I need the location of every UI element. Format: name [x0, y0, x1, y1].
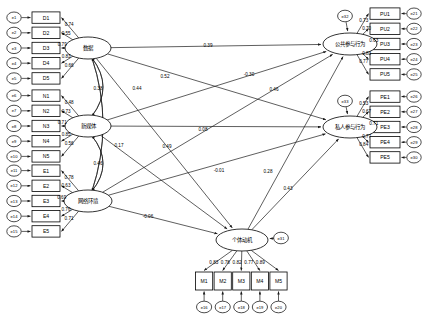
error-label-e15: e15: [11, 229, 19, 234]
loading-coef-m4: 0.77: [244, 260, 253, 265]
indicator-label-m4: M4: [256, 278, 263, 284]
disturbance-label-e33: e33: [342, 99, 350, 104]
loading-coef-pe3: 0.71: [369, 121, 378, 126]
path-coef-e-pu: 0.46: [270, 87, 279, 92]
indicator-label-pu1: PU1: [380, 11, 390, 17]
indicator-label-m1: M1: [201, 278, 208, 284]
latent-label-pe: 私人参与行为: [335, 123, 365, 131]
indicator-label-d4: D4: [43, 60, 50, 66]
error-label-e18: e18: [238, 305, 246, 310]
error-label-e26: e26: [411, 94, 419, 99]
path-m-to-pe: [252, 139, 339, 230]
path-n-to-pe: [111, 126, 321, 127]
indicator-label-m2: M2: [219, 278, 226, 284]
indicator-label-d3: D3: [43, 45, 50, 51]
error-label-e23: e23: [411, 42, 419, 47]
loading-arrow-e5: [62, 211, 79, 231]
error-label-e1: e1: [12, 15, 17, 20]
loading-coef-m1: 0.83: [209, 260, 218, 265]
error-label-e29: e29: [411, 140, 419, 145]
loading-coef-e4: 0.76: [62, 207, 71, 212]
sem-path-diagram: D1e10.74D2e20.55D3e30.79D4e40.83D5e50.66…: [0, 0, 432, 320]
loading-coef-e1: 0.78: [65, 175, 74, 180]
error-label-e16: e16: [201, 305, 209, 310]
latent-label-e: 网络环境: [78, 197, 99, 205]
loading-coef-n1: 0.48: [65, 100, 74, 105]
path-coef-d-pe: 0.52: [161, 74, 170, 79]
error-label-e22: e22: [411, 26, 419, 31]
path-coef-e-pe: 0.49: [163, 144, 172, 149]
path-coef-d-m: -0.01: [214, 168, 225, 173]
error-label-e27: e27: [411, 109, 419, 114]
error-label-e6: e6: [12, 93, 17, 98]
indicator-label-m3: M3: [238, 278, 245, 284]
loading-coef-e3: 0.69: [57, 195, 66, 200]
error-label-e28: e28: [411, 125, 419, 130]
error-label-e3: e3: [12, 46, 17, 51]
error-label-e7: e7: [12, 108, 17, 113]
cov-coef-d-n: 0.38: [94, 86, 103, 91]
path-coef-m-pu: 0.28: [264, 169, 273, 174]
indicator-label-d2: D2: [43, 30, 50, 36]
indicator-label-pe1: PE1: [380, 94, 390, 100]
loading-coef-d2: 0.55: [62, 31, 71, 36]
error-label-e24: e24: [411, 57, 419, 62]
indicator-label-n2: N2: [43, 108, 50, 114]
indicator-label-pu4: PU4: [380, 56, 390, 62]
latent-label-m: 个体动机: [232, 236, 253, 244]
disturbance-label-e31: e31: [278, 236, 286, 241]
error-label-e13: e13: [11, 199, 19, 204]
error-label-e17: e17: [219, 305, 227, 310]
indicator-label-n3: N3: [43, 123, 50, 129]
error-label-e12: e12: [11, 183, 19, 188]
loading-coef-d4: 0.83: [62, 54, 71, 59]
path-e-to-m: [109, 206, 217, 233]
loading-coef-e2: 0.63: [62, 183, 71, 188]
loading-coef-d3: 0.79: [58, 42, 67, 47]
loading-coef-pu1: 0.73: [359, 18, 368, 23]
error-label-e30: e30: [411, 155, 419, 160]
loading-coef-pu2: 0.70: [362, 26, 371, 31]
loading-coef-e5: 0.71: [65, 216, 74, 221]
error-label-e11: e11: [11, 168, 18, 173]
error-label-e2: e2: [12, 30, 17, 35]
indicator-label-e1: E1: [43, 168, 49, 174]
error-label-e9: e9: [12, 139, 17, 144]
loading-arrow-d5: [62, 58, 79, 78]
disturbance-arrow-e33: [346, 107, 347, 114]
loading-coef-n4: 0.85: [62, 132, 71, 137]
loading-coef-pu3: 0.63: [369, 38, 378, 43]
cov-coef-d-e: 0.44: [133, 86, 142, 91]
indicator-label-e2: E2: [43, 183, 49, 189]
indicator-label-n5: N5: [43, 153, 50, 159]
disturbance-label-e32: e32: [342, 14, 350, 19]
indicator-label-d1: D1: [43, 15, 50, 21]
loading-coef-d1: 0.74: [65, 22, 74, 27]
indicator-label-pe3: PE3: [380, 124, 390, 130]
disturbance-arrow-e32: [346, 22, 348, 31]
loading-coef-d5: 0.66: [65, 63, 74, 68]
loading-coef-pe2: 0.67: [362, 109, 371, 114]
loading-arrow-n5: [62, 136, 79, 156]
loading-coef-pe1: 0.53: [359, 101, 368, 106]
error-label-e10: e10: [11, 154, 19, 159]
error-label-e19: e19: [256, 305, 264, 310]
indicator-label-pu2: PU2: [380, 26, 390, 32]
indicator-label-d5: D5: [43, 75, 50, 81]
latent-label-pu: 公共参与行为: [335, 40, 365, 48]
error-label-e5: e5: [12, 76, 17, 81]
error-label-e20: e20: [275, 305, 283, 310]
latent-label-d: 数据: [83, 44, 94, 52]
loading-coef-m5: 0.89: [256, 260, 265, 265]
path-coef-e-m: -0.06: [143, 214, 154, 219]
indicator-label-m5: M5: [275, 278, 282, 284]
loading-coef-m3: 0.82: [233, 260, 242, 265]
indicator-label-n1: N1: [43, 93, 50, 99]
path-e-to-pe: [108, 134, 325, 195]
loading-coef-n3: 0.71: [58, 120, 67, 125]
indicator-label-e5: E5: [43, 228, 49, 234]
error-label-e21: e21: [411, 11, 419, 16]
path-coef-n-pu: -0.30: [244, 72, 255, 77]
indicator-label-n4: N4: [43, 138, 50, 144]
loading-coef-pe5: 0.84: [359, 142, 368, 147]
